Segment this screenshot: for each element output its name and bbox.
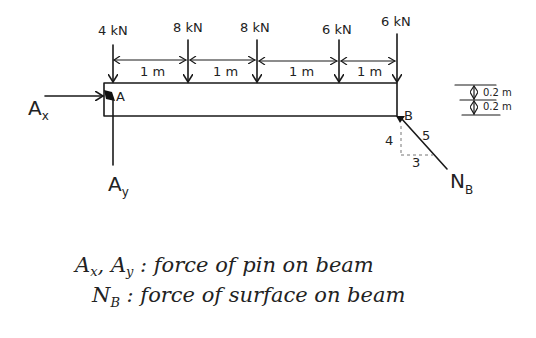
slope-run-label: 3 (412, 155, 420, 170)
thickness-label-bottom: 0.2 m (483, 101, 512, 112)
span-label-2: 1 m (213, 64, 238, 79)
span-dimensions (114, 60, 395, 61)
reaction-nb-line (401, 118, 447, 169)
span-label-4: 1 m (357, 64, 382, 79)
support-a-label: A (116, 89, 125, 104)
span-label-3: 1 m (289, 64, 314, 79)
reaction-nb-label: NB (450, 169, 473, 197)
note-surface-force: NB : force of surface on beam (91, 283, 405, 310)
load-label-5: 6 kN (381, 14, 411, 29)
span-label-1: 1 m (140, 64, 165, 79)
slope-hyp-label: 5 (422, 128, 430, 143)
beam (104, 83, 397, 116)
load-label-4: 6 kN (322, 22, 352, 37)
load-label-1: 4 kN (98, 23, 128, 38)
reaction-ay-label: Ay (108, 172, 129, 199)
support-b-label: B (404, 108, 413, 123)
reaction-ax-label: Ax (28, 96, 49, 123)
beam-diagram: 4 kN 8 kN 8 kN 6 kN 6 kN 1 m 1 m 1 m 1 m… (0, 0, 536, 338)
thickness-label-top: 0.2 m (483, 87, 512, 98)
load-label-2: 8 kN (173, 20, 203, 35)
note-pin-force: Ax, Ay : force of pin on beam (73, 253, 374, 279)
slope-rise-label: 4 (385, 133, 393, 148)
load-label-3: 8 kN (240, 20, 270, 35)
